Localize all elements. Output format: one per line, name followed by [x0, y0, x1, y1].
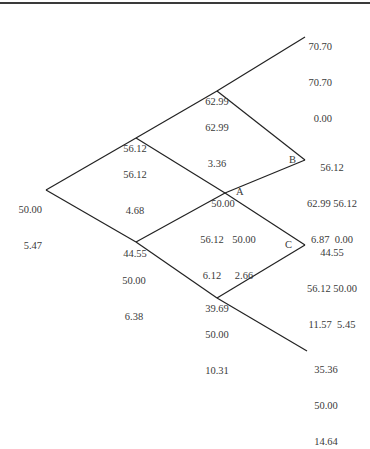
node-letter-c: C	[285, 239, 292, 250]
b-leaf-line1: 56.12	[306, 162, 358, 174]
up2-line2: 3.36	[197, 158, 237, 170]
up1-line1: 56.12	[115, 169, 155, 181]
node-letter-b: B	[289, 154, 296, 165]
root-value: 5.47	[10, 240, 42, 252]
mid-right-line1: 50.00	[228, 234, 260, 246]
node-letter-a: A	[236, 186, 244, 197]
node-root-label: 50.00 5.47	[10, 180, 42, 264]
mid-price: 50.00	[203, 198, 243, 210]
node-c-leaf: 44.55 56.12 50.00 11.57 5.45	[305, 223, 359, 343]
c-leaf-line1: 44.55	[305, 247, 359, 259]
up2-line1: 62.99	[197, 122, 237, 134]
b-leaf-line2: 62.99 56.12	[306, 198, 358, 210]
top-leaf-line3: 0.00	[300, 113, 332, 125]
c-leaf-line2: 56.12 50.00	[305, 283, 359, 295]
node-down2-below: 50.00 10.31	[197, 305, 237, 389]
bottom-leaf-line3: 14.64	[310, 436, 342, 448]
bottom-leaf-line1: 35.36	[310, 364, 342, 376]
node-up2-below: 62.99 3.36	[197, 98, 237, 182]
top-leaf-line1: 70.70	[300, 41, 332, 53]
mid-left-line1: 56.12	[196, 234, 228, 246]
down1-line2: 6.38	[114, 311, 154, 323]
down2-line2: 10.31	[197, 365, 237, 377]
bottom-leaf-line2: 50.00	[310, 400, 342, 412]
node-down1-below: 50.00 6.38	[114, 251, 154, 335]
node-bottom-leaf: 35.36 50.00 14.64	[310, 340, 342, 449]
c-leaf-line3: 11.57 5.45	[305, 319, 359, 331]
down2-line1: 50.00	[197, 329, 237, 341]
down1-line1: 50.00	[114, 275, 154, 287]
up1-line2: 4.68	[115, 205, 155, 217]
top-leaf-line2: 70.70	[300, 77, 332, 89]
root-price: 50.00	[10, 204, 42, 216]
node-top-leaf: 70.70 70.70 0.00	[300, 17, 332, 137]
node-up1-below: 56.12 4.68	[115, 145, 155, 229]
